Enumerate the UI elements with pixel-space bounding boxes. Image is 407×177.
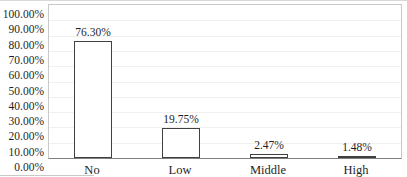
y-axis-tick-label: 0.00% <box>0 160 44 174</box>
y-axis-tick-label: 90.00% <box>0 22 44 36</box>
y-axis-tick-label: 30.00% <box>0 114 44 128</box>
bar-middle <box>250 154 288 158</box>
data-label-no: 76.30% <box>53 26 133 39</box>
y-axis-tick-label: 100.00% <box>0 7 44 21</box>
y-axis-tick-label: 60.00% <box>0 68 44 82</box>
data-label-middle: 2.47% <box>229 139 309 152</box>
bar-no <box>74 41 112 158</box>
cropped-edge-fragment <box>0 175 94 176</box>
y-axis-tick-label: 50.00% <box>0 84 44 98</box>
y-axis-tick-label: 80.00% <box>0 38 44 52</box>
bar-chart: 100.00%90.00%80.00%70.00%60.00%50.00%40.… <box>0 0 407 177</box>
y-axis-tick-label: 70.00% <box>0 53 44 67</box>
category-label-high: High <box>312 163 400 177</box>
y-axis-tick-label: 10.00% <box>0 145 44 159</box>
gridline <box>49 20 401 21</box>
y-axis-tick-label: 40.00% <box>0 99 44 113</box>
bar-high <box>338 156 376 158</box>
y-axis-tick-label: 20.00% <box>0 129 44 143</box>
category-label-middle: Middle <box>224 163 312 177</box>
category-label-low: Low <box>136 163 224 177</box>
plot-area: 76.30%19.75%2.47%1.48% <box>48 4 402 159</box>
bar-low <box>162 128 200 158</box>
data-label-low: 19.75% <box>141 113 221 126</box>
data-label-high: 1.48% <box>317 141 397 154</box>
chart-top-border <box>0 0 407 1</box>
